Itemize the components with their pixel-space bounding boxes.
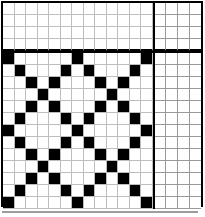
grid-cell-empty[interactable]	[141, 185, 153, 197]
grid-cell-empty[interactable]	[130, 125, 142, 137]
grid-cell-empty[interactable]	[49, 125, 61, 137]
grid-cell-filled[interactable]	[15, 185, 27, 197]
aux-cell-empty[interactable]	[190, 137, 201, 149]
grid-cell-empty[interactable]	[61, 197, 73, 209]
grid-cell-empty[interactable]	[118, 125, 130, 137]
grid-cell-empty[interactable]	[38, 113, 50, 125]
aux-cell-empty[interactable]	[178, 161, 190, 173]
grid-cell-empty[interactable]	[3, 89, 15, 101]
grid-cell-empty[interactable]	[95, 113, 107, 125]
aux-cell-empty[interactable]	[190, 173, 201, 185]
grid-cell-empty[interactable]	[38, 137, 50, 149]
grid-cell-empty[interactable]	[72, 77, 84, 89]
grid-cell-empty[interactable]	[26, 185, 38, 197]
grid-cell-empty[interactable]	[141, 101, 153, 113]
aux-cell-empty[interactable]	[178, 3, 190, 15]
grid-cell-empty[interactable]	[118, 53, 130, 65]
grid-cell-filled[interactable]	[84, 185, 96, 197]
grid-cell-empty[interactable]	[107, 101, 119, 113]
puzzle-body[interactable]	[3, 53, 201, 209]
filled-marker[interactable]	[166, 137, 178, 149]
aux-cell-empty[interactable]	[190, 77, 201, 89]
grid-cell-empty[interactable]	[107, 65, 119, 77]
grid-cell-empty[interactable]	[72, 65, 84, 77]
grid-cell-filled[interactable]	[15, 137, 27, 149]
grid-cell-empty[interactable]	[141, 149, 153, 161]
grid-cell-empty[interactable]	[26, 125, 38, 137]
aux-cell-empty[interactable]	[155, 3, 167, 15]
open-marker[interactable]	[178, 15, 190, 27]
grid-cell-empty[interactable]	[26, 161, 38, 173]
aux-cell-empty[interactable]	[190, 149, 201, 161]
grid-cell-empty[interactable]	[38, 53, 50, 65]
grid-cell-empty[interactable]	[141, 77, 153, 89]
grid-cell-empty[interactable]	[49, 53, 61, 65]
grid-cell-empty[interactable]	[95, 185, 107, 197]
grid-cell-empty[interactable]	[61, 77, 73, 89]
aux-cell-empty[interactable]	[155, 77, 167, 89]
grid-cell-empty[interactable]	[26, 113, 38, 125]
grid-cell-empty[interactable]	[3, 185, 15, 197]
puzzle-grid[interactable]	[1, 1, 203, 207]
aux-cell-empty[interactable]	[166, 149, 178, 161]
aux-cell-empty[interactable]	[166, 53, 178, 65]
aux-cell-empty[interactable]	[155, 89, 167, 101]
grid-cell-empty[interactable]	[107, 77, 119, 89]
grid-cell-empty[interactable]	[141, 161, 153, 173]
grid-cell-filled[interactable]	[26, 101, 38, 113]
grid-cell-empty[interactable]	[118, 65, 130, 77]
grid-cell-empty[interactable]	[141, 65, 153, 77]
grid-cell-empty[interactable]	[107, 125, 119, 137]
grid-cell-filled[interactable]	[84, 65, 96, 77]
grid-cell-empty[interactable]	[49, 161, 61, 173]
grid-cell-filled[interactable]	[141, 125, 153, 137]
grid-cell-empty[interactable]	[15, 101, 27, 113]
grid-cell-empty[interactable]	[95, 89, 107, 101]
filled-marker[interactable]	[190, 89, 201, 101]
grid-cell-empty[interactable]	[95, 137, 107, 149]
grid-row[interactable]	[3, 137, 201, 149]
aux-cell-empty[interactable]	[166, 125, 178, 137]
grid-cell-empty[interactable]	[130, 77, 142, 89]
aux-cell-empty[interactable]	[178, 53, 190, 65]
aux-cell-empty[interactable]	[190, 101, 201, 113]
grid-cell-filled[interactable]	[61, 113, 73, 125]
grid-cell-empty[interactable]	[107, 53, 119, 65]
grid-cell-empty[interactable]	[61, 53, 73, 65]
filled-marker[interactable]	[166, 185, 178, 197]
grid-cell-filled[interactable]	[72, 197, 84, 209]
aux-cell-empty[interactable]	[178, 27, 190, 39]
filled-marker[interactable]	[190, 161, 201, 173]
grid-cell-empty[interactable]	[130, 197, 142, 209]
grid-cell-empty[interactable]	[15, 77, 27, 89]
open-marker[interactable]	[166, 27, 178, 39]
grid-cell-empty[interactable]	[95, 53, 107, 65]
grid-cell-empty[interactable]	[49, 65, 61, 77]
grid-cell-empty[interactable]	[61, 125, 73, 137]
aux-cell-empty[interactable]	[155, 173, 167, 185]
grid-cell-empty[interactable]	[141, 113, 153, 125]
grid-cell-filled[interactable]	[130, 113, 142, 125]
grid-cell-empty[interactable]	[141, 137, 153, 149]
grid-cell-empty[interactable]	[72, 185, 84, 197]
grid-cell-filled[interactable]	[118, 101, 130, 113]
grid-cell-filled[interactable]	[61, 65, 73, 77]
grid-cell-empty[interactable]	[107, 137, 119, 149]
grid-cell-empty[interactable]	[107, 197, 119, 209]
grid-cell-empty[interactable]	[26, 53, 38, 65]
aux-cell-empty[interactable]	[178, 137, 190, 149]
grid-cell-filled[interactable]	[95, 173, 107, 185]
grid-cell-empty[interactable]	[38, 149, 50, 161]
grid-cell-filled[interactable]	[84, 137, 96, 149]
aux-cell-empty[interactable]	[166, 3, 178, 15]
aux-cell-empty[interactable]	[190, 39, 201, 51]
grid-cell-filled[interactable]	[49, 149, 61, 161]
grid-cell-empty[interactable]	[118, 161, 130, 173]
aux-cell-empty[interactable]	[178, 125, 190, 137]
grid-cell-empty[interactable]	[84, 53, 96, 65]
aux-cell-empty[interactable]	[155, 113, 167, 125]
grid-cell-empty[interactable]	[130, 173, 142, 185]
aux-cell-empty[interactable]	[178, 185, 190, 197]
grid-cell-filled[interactable]	[61, 185, 73, 197]
aux-cell-empty[interactable]	[166, 173, 178, 185]
